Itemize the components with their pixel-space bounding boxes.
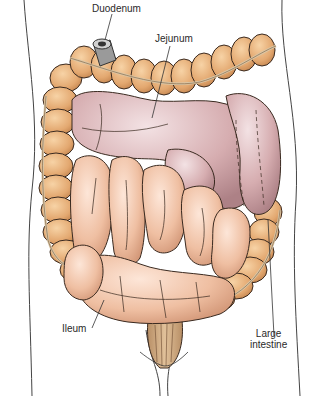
duodenum-label: Duodenum: [92, 3, 141, 14]
jejunum-label: Jejunum: [155, 33, 193, 44]
large-intestine-label-line1: Large: [250, 328, 287, 339]
large-intestine-label-line2: intestine: [250, 339, 287, 350]
ileum-label: Ileum: [62, 323, 86, 334]
rectum: [140, 320, 188, 368]
large-intestine-label: Large intestine: [250, 328, 287, 350]
